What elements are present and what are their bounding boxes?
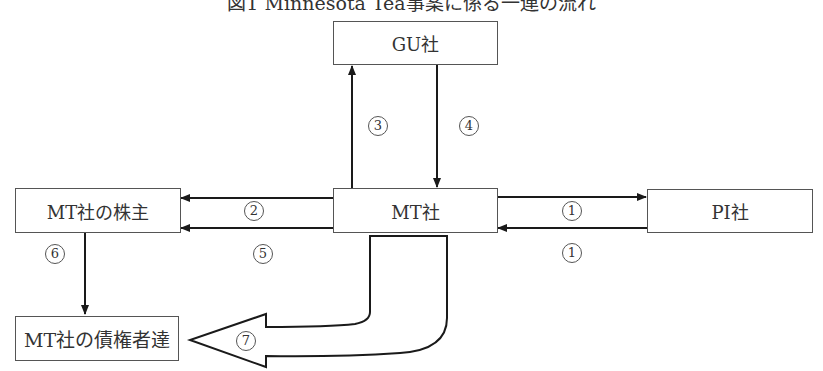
label-5: 5 (253, 244, 273, 264)
label-7: 7 (236, 331, 256, 351)
label-6: 6 (45, 244, 65, 264)
label-1-top: 1 (562, 201, 582, 221)
node-gu: GU社 (333, 21, 498, 65)
node-pi: PI社 (647, 189, 813, 233)
label-3: 3 (368, 116, 388, 136)
node-creditors: MT社の債権者達 (15, 316, 179, 361)
label-4: 4 (459, 116, 479, 136)
node-mt: MT社 (333, 188, 498, 233)
arrow-7-block (190, 236, 447, 367)
label-1-bottom: 1 (562, 243, 582, 263)
node-shareholders: MT社の株主 (15, 188, 181, 233)
label-2: 2 (244, 201, 264, 221)
